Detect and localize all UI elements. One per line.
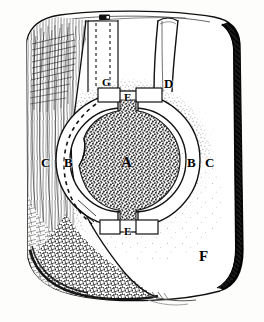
label-A: A: [121, 155, 132, 170]
label-B-left: B: [64, 156, 73, 169]
gap-tab-bottom-right: [136, 220, 158, 234]
label-D: D: [164, 77, 173, 90]
label-G: G: [102, 77, 111, 88]
gap-tab-top-right: [136, 88, 162, 102]
label-C-left: C: [41, 156, 50, 169]
label-B-right: B: [187, 156, 196, 169]
figure-svg: [0, 0, 264, 322]
top-plug-highlight: [107, 16, 110, 19]
label-E-top: E: [124, 92, 131, 103]
core-tongue-bottom: [120, 210, 136, 220]
label-F: F: [199, 249, 208, 264]
gap-tab-top-left: [98, 88, 120, 102]
label-C-right: C: [205, 156, 214, 169]
figure-illustration: A B C B C D E E F G: [0, 0, 264, 322]
label-E-bottom: E: [124, 226, 131, 237]
gap-tab-bottom-left: [100, 220, 120, 234]
